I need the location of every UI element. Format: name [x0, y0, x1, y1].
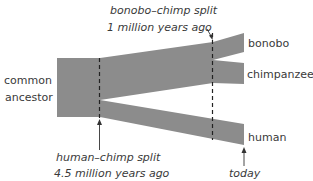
common-ancestor-trunk	[57, 58, 100, 117]
bonobo-chimp-split-arrowhead-icon	[209, 34, 213, 40]
human-chimp-split-line2: 4.5 million years ago	[54, 167, 170, 180]
chimp-bonobo-lineage	[100, 42, 213, 100]
today-arrowhead-icon	[242, 147, 247, 153]
human-branch	[100, 100, 244, 145]
bonobo-branch	[213, 33, 244, 60]
today-label: today	[229, 167, 261, 180]
root-label-line1: common	[4, 74, 52, 87]
root-label-line2: ancestor	[5, 91, 53, 104]
chimpanzee-branch	[213, 60, 244, 84]
leaf-label-bonobo: bonobo	[248, 37, 289, 50]
human-chimp-split-line1: human–chimp split	[56, 151, 161, 164]
bonobo-chimp-split-line1: bonobo–chimp split	[110, 4, 218, 17]
phylogeny-diagram: common ancestor bonobo chimpanzee human …	[0, 0, 313, 181]
bonobo-chimp-split-line2: 1 million years ago	[107, 21, 212, 34]
leaf-label-human: human	[248, 131, 286, 144]
human-chimp-split-arrowhead-icon	[97, 119, 102, 125]
leaf-label-chimpanzee: chimpanzee	[247, 68, 313, 81]
